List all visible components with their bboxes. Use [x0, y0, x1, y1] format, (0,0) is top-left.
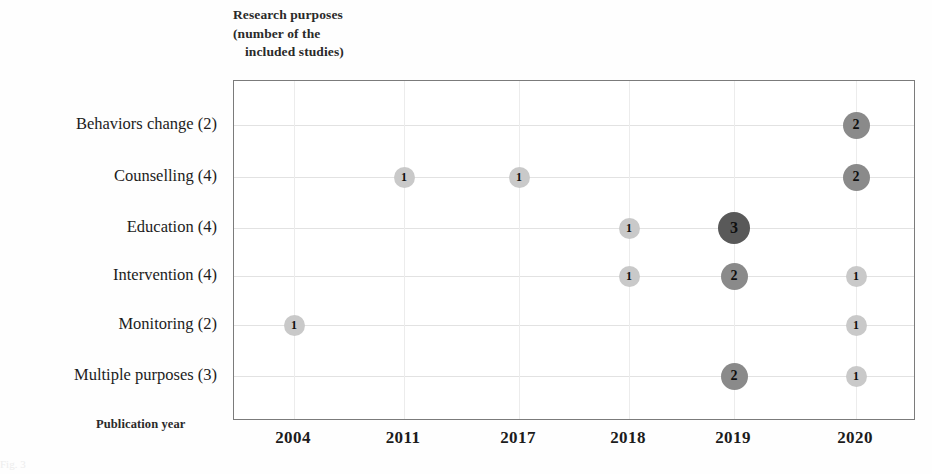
data-bubble: 2	[721, 363, 748, 390]
x-axis-label: 2018	[588, 428, 668, 448]
bubble-series: 2112131211121	[234, 81, 914, 419]
data-bubble: 1	[846, 315, 867, 336]
figure-canvas: Research purposes (number of the include…	[0, 0, 932, 474]
y-axis-caption: Research purposes (number of the include…	[233, 6, 413, 62]
x-axis-label: 2020	[815, 428, 895, 448]
figure-caption-fragment: Fig. 3	[0, 458, 230, 472]
y-axis-label: Education (4)	[0, 219, 217, 236]
data-bubble: 3	[718, 212, 750, 244]
y-axis-label: Behaviors change (2)	[0, 116, 217, 133]
data-bubble: 1	[619, 266, 640, 287]
y-axis-label: Monitoring (2)	[0, 316, 217, 333]
y-axis-label: Multiple purposes (3)	[0, 367, 217, 384]
x-axis-title: Publication year	[96, 417, 185, 432]
y-axis-label: Counselling (4)	[0, 168, 217, 185]
plot-area: 2112131211121	[233, 80, 915, 420]
data-bubble: 1	[846, 266, 867, 287]
data-bubble: 2	[843, 112, 870, 139]
data-bubble: 2	[843, 164, 870, 191]
x-axis-label: 2004	[253, 428, 333, 448]
x-axis-label: 2019	[693, 428, 773, 448]
data-bubble: 1	[509, 167, 530, 188]
data-bubble: 1	[619, 218, 640, 239]
data-bubble: 1	[394, 167, 415, 188]
x-axis-label: 2017	[478, 428, 558, 448]
data-bubble: 2	[721, 263, 748, 290]
y-axis-label: Intervention (4)	[0, 267, 217, 284]
data-bubble: 1	[846, 366, 867, 387]
y-axis-caption-line-3: included studies)	[233, 43, 413, 62]
x-axis-label: 2011	[363, 428, 443, 448]
data-bubble: 1	[284, 315, 305, 336]
y-axis-caption-line-2: (number of the	[233, 25, 413, 44]
y-axis-caption-line-1: Research purposes	[233, 6, 413, 25]
